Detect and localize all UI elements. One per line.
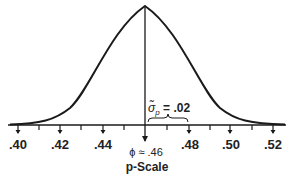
- tick-label-052: .52: [264, 137, 282, 152]
- sigma-subscript: p: [155, 108, 159, 117]
- tick-label-040: .40: [9, 137, 27, 152]
- mean-arrow-icon: [142, 136, 148, 142]
- axis-title: p-Scale: [126, 160, 169, 174]
- sigma-label: σ̃p = .02: [148, 101, 190, 117]
- tick-label-044: .44: [94, 137, 112, 152]
- sigma-value: = .02: [163, 101, 190, 115]
- mean-label: ϕ ≈ .46: [129, 146, 163, 158]
- tick-label-048: .48: [181, 137, 199, 152]
- tick-label-050: .50: [222, 137, 240, 152]
- tick-label-042: .42: [51, 137, 69, 152]
